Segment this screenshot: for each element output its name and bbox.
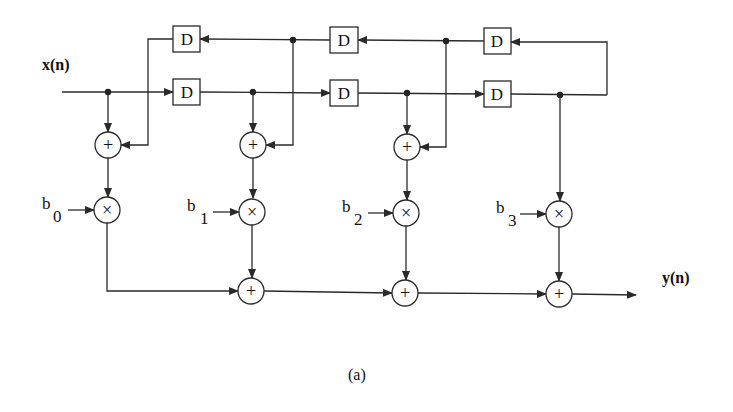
fir-folded-structure-diagram: D D D D D D + + + × × × (0, 0, 733, 412)
delay-element-bottom-3: D (484, 81, 511, 107)
svg-text:D: D (338, 84, 350, 103)
svg-text:+: + (402, 137, 412, 157)
svg-text:×: × (102, 200, 112, 220)
svg-text:+: + (246, 281, 256, 301)
coefficient-label-b0: b 0 (42, 194, 62, 226)
svg-text:+: + (554, 284, 564, 304)
svg-text:×: × (401, 203, 411, 223)
svg-text:b: b (342, 197, 351, 216)
delay-element-top-2: D (330, 27, 358, 53)
tap-verticals (108, 92, 560, 281)
pre-adder-0: + (95, 132, 121, 158)
multiplier-0: × (94, 197, 120, 223)
output-adder-2: + (392, 280, 418, 306)
svg-text:+: + (248, 135, 258, 155)
multiplier-1: × (239, 199, 265, 225)
multiplier-3: × (546, 201, 572, 227)
pre-adder-2: + (394, 134, 420, 160)
svg-text:D: D (181, 83, 193, 102)
delay-element-top-1: D (173, 26, 200, 52)
multiplier-2: × (393, 200, 419, 226)
svg-text:D: D (338, 31, 350, 50)
svg-text:D: D (491, 85, 503, 104)
svg-text:2: 2 (354, 210, 363, 229)
svg-text:b: b (42, 194, 51, 213)
svg-text:+: + (103, 135, 113, 155)
output-adder-1: + (238, 278, 264, 304)
svg-text:×: × (554, 204, 564, 224)
coefficient-label-b2: b 2 (342, 197, 363, 229)
delay-element-top-3: D (484, 28, 511, 54)
svg-text:D: D (491, 32, 503, 51)
svg-text:1: 1 (200, 209, 209, 228)
svg-text:0: 0 (53, 207, 62, 226)
svg-text:3: 3 (508, 211, 517, 230)
delay-element-bottom-2: D (330, 80, 358, 106)
coefficient-label-b1: b 1 (187, 196, 209, 228)
svg-text:b: b (496, 198, 505, 217)
coefficient-arrows (68, 210, 546, 214)
output-adder-3: + (546, 281, 572, 307)
pre-adder-1: + (240, 132, 266, 158)
svg-text:D: D (181, 30, 193, 49)
svg-text:b: b (187, 196, 196, 215)
figure-caption: (a) (348, 366, 366, 384)
output-label: y(n) (662, 269, 690, 287)
input-label: x(n) (42, 56, 70, 74)
delay-element-bottom-1: D (173, 79, 200, 105)
svg-text:×: × (247, 202, 257, 222)
svg-text:+: + (400, 283, 410, 303)
coefficient-label-b3: b 3 (496, 198, 517, 230)
